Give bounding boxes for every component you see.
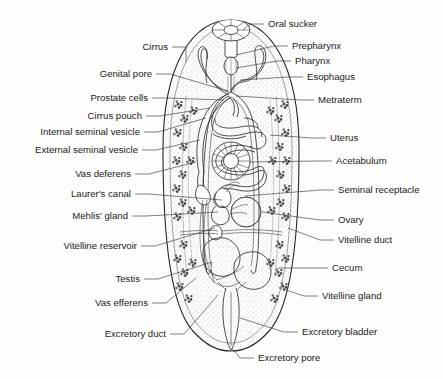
label-vitelline-reservoir: Vitelline reservoir <box>64 240 138 251</box>
label-uterus: Uterus <box>330 132 358 143</box>
label-cirrus-pouch: Cirrus pouch <box>88 110 142 121</box>
label-excretory-bladder: Excretory bladder <box>302 326 378 337</box>
label-oral-sucker: Oral sucker <box>268 18 318 29</box>
label-excretory-duct: Excretory duct <box>105 328 167 339</box>
label-genital-pore: Genital pore <box>100 68 152 79</box>
label-vas-efferens: Vas efferens <box>95 297 148 308</box>
label-mehlis-gland: Mehlis' gland <box>72 210 128 221</box>
label-metraterm: Metraterm <box>318 94 362 105</box>
label-vitelline-gland: Vitelline gland <box>322 290 382 301</box>
label-acetabulum: Acetabulum <box>336 155 387 166</box>
label-internal-seminal-vesicle: Internal seminal vesicle <box>40 126 140 137</box>
label-testis: Testis <box>115 273 140 284</box>
label-excretory-pore: Excretory pore <box>258 352 320 363</box>
label-seminal-receptacle: Seminal receptacle <box>338 184 420 195</box>
label-ovary: Ovary <box>338 214 364 225</box>
oral-sucker <box>212 19 250 41</box>
label-pharynx: Pharynx <box>295 55 330 66</box>
label-vitelline-duct: Vitelline duct <box>338 234 393 245</box>
anatomy-illustration: CirrusGenital poreProstate cellsCirrus p… <box>0 0 443 379</box>
label-esophagus: Esophagus <box>307 71 355 82</box>
label-external-seminal-vesicle: External seminal vesicle <box>35 144 138 155</box>
trematode-diagram: CirrusGenital poreProstate cellsCirrus p… <box>0 0 443 379</box>
label-prepharynx: Prepharynx <box>292 40 341 51</box>
label-prostate-cells: Prostate cells <box>90 92 148 103</box>
label-cirrus: Cirrus <box>142 41 168 52</box>
label-vas-deferens: Vas deferens <box>75 168 131 179</box>
label-laurers-canal: Laurer's canal <box>71 188 131 199</box>
label-cecum: Cecum <box>332 262 362 273</box>
label-group-left: CirrusGenital poreProstate cellsCirrus p… <box>35 41 168 339</box>
leader-line-vitelline-gland <box>286 290 318 296</box>
